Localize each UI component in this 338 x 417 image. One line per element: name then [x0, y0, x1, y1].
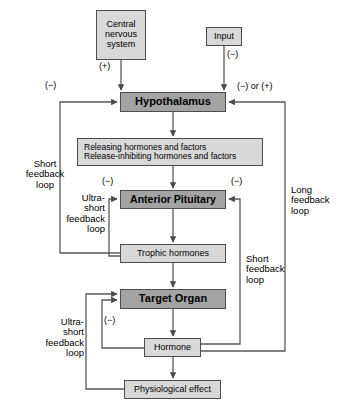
node-label-anterior-pituitary: Anterior Pituitary [130, 194, 216, 205]
sign-input-minus: (−) [227, 50, 238, 60]
node-input[interactable]: Input [206, 27, 242, 46]
label-ultra-short-feedback-loop-upper: Ultra- short feedback loop [58, 193, 105, 234]
node-hormone[interactable]: Hormone [144, 338, 201, 357]
line-short-feedback-right [201, 199, 240, 344]
node-label-hormone: Hormone [154, 343, 191, 353]
node-label-trophic-hormones: Trophic hormones [137, 249, 209, 259]
node-target-organ[interactable]: Target Organ [120, 289, 226, 309]
node-label-input: Input [214, 32, 234, 42]
label-short-feedback-loop-left: Short feedback loop [20, 159, 70, 190]
line-ultra-short-upper [109, 199, 120, 256]
node-central-nervous-system[interactable]: Central nervous system [96, 10, 146, 60]
sign-target-organ-minus: (−) [104, 316, 115, 326]
node-physiological-effect[interactable]: Physiological effect [124, 380, 221, 399]
node-hypothalamus[interactable]: Hypothalamus [120, 92, 226, 112]
flowchart-diagram: Central nervous system Input Hypothalamu… [0, 0, 338, 417]
label-short-feedback-loop-right: Short feedback loop [246, 254, 292, 285]
sign-right-minus-or-plus: (−) or (+) [237, 82, 273, 92]
node-label-releasing-hormones: Releasing hormones and factors Release-i… [84, 143, 236, 161]
label-long-feedback-loop-right: Long feedback loop [291, 185, 337, 216]
node-releasing-hormones[interactable]: Releasing hormones and factors Release-i… [77, 138, 263, 166]
sign-cns-plus: (+) [99, 62, 110, 72]
node-label-central-nervous-system: Central nervous system [105, 20, 137, 49]
line-ultra-short-lower-physiological [86, 294, 124, 389]
sign-long-feedback-minus: (−) [45, 81, 56, 91]
node-trophic-hormones[interactable]: Trophic hormones [120, 244, 226, 263]
sign-anterior-pituitary-left-minus: (−) [102, 177, 113, 187]
sign-anterior-pituitary-right-minus: (−) [231, 177, 242, 187]
node-label-physiological-effect: Physiological effect [134, 385, 211, 395]
node-label-hypothalamus: Hypothalamus [135, 96, 211, 108]
label-ultra-short-feedback-loop-lower: Ultra- short feedback loop [36, 317, 84, 358]
node-label-target-organ: Target Organ [139, 293, 207, 305]
node-anterior-pituitary[interactable]: Anterior Pituitary [120, 190, 226, 209]
